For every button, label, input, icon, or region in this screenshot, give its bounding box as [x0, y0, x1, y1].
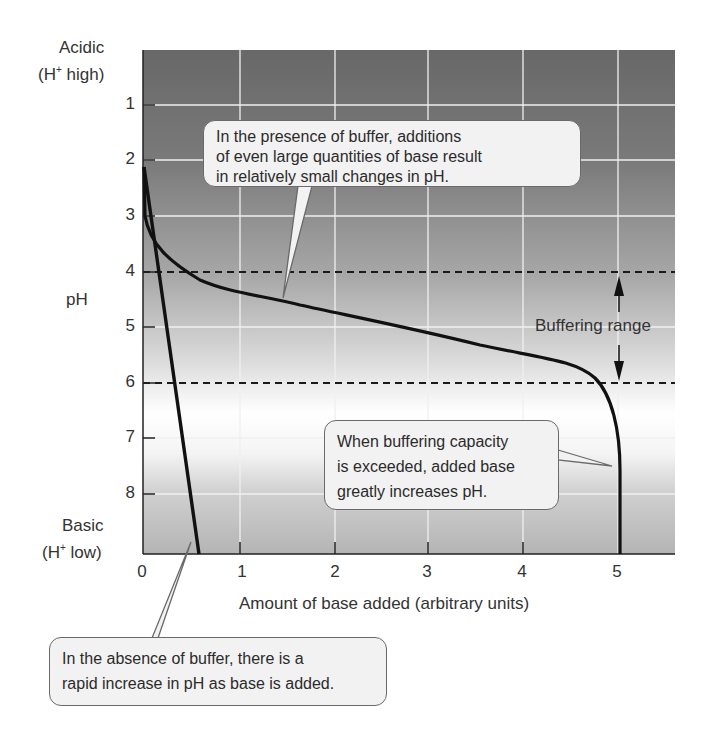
callout-exceeded: When buffering capacity is exceeded, add…: [324, 420, 559, 510]
callout-no-buffer: In the absence of buffer, there is a rap…: [49, 637, 387, 706]
x-tick-4: 4: [512, 562, 532, 582]
x-tick-0: 0: [132, 562, 152, 582]
h-low-prefix: (H: [42, 543, 60, 562]
callout-no-buffer-line-1: In the absence of buffer, there is a: [62, 646, 374, 671]
chart-canvas: [0, 0, 713, 741]
callout-buffer-line-2: of even large quantities of base result: [216, 147, 568, 167]
y-tick-1: 1: [115, 94, 135, 114]
y-tick-4: 4: [115, 261, 135, 281]
y-axis-label-ph: pH: [66, 290, 88, 310]
y-top-label-h-high: (H+ high): [38, 64, 104, 85]
x-tick-1: 1: [232, 562, 252, 582]
y-bottom-label-basic: Basic: [62, 516, 104, 536]
y-tick-5: 5: [115, 316, 135, 336]
callout-buffer-line-1: In the presence of buffer, additions: [216, 127, 568, 147]
callout-buffer: In the presence of buffer, additions of …: [203, 120, 581, 187]
h-low-suffix: low): [66, 543, 102, 562]
h-high-prefix: (H: [38, 65, 56, 84]
y-tick-7: 7: [115, 427, 135, 447]
x-axis-label: Amount of base added (arbitrary units): [239, 594, 529, 614]
buffering-range-label: Buffering range: [535, 316, 651, 336]
y-bottom-label-h-low: (H+ low): [42, 542, 102, 563]
y-top-label-acidic: Acidic: [59, 38, 104, 58]
y-tick-2: 2: [115, 149, 135, 169]
callout-exceeded-line-2: is exceeded, added base: [337, 454, 546, 479]
x-tick-2: 2: [325, 562, 345, 582]
callout-buffer-line-3: in relatively small changes in pH.: [216, 167, 568, 187]
y-tick-6: 6: [115, 372, 135, 392]
h-high-suffix: high): [62, 65, 105, 84]
x-tick-3: 3: [417, 562, 437, 582]
callout-exceeded-line-3: greatly increases pH.: [337, 479, 546, 504]
y-tick-3: 3: [115, 205, 135, 225]
callout-no-buffer-line-2: rapid increase in pH as base is added.: [62, 671, 374, 696]
x-tick-5: 5: [607, 562, 627, 582]
callout-exceeded-line-1: When buffering capacity: [337, 429, 546, 454]
y-tick-8: 8: [115, 483, 135, 503]
callout-pointer-no-buffer: [152, 542, 191, 638]
